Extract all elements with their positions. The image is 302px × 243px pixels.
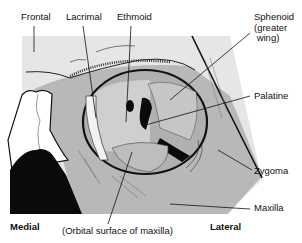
label-palatine: Palatine [254,91,288,102]
label-zygoma: Zygoma [254,166,288,177]
orientation-lateral: Lateral [210,222,241,233]
label-ethmoid: Ethmoid [117,12,152,23]
label-sphenoid: Sphenoid (greater wing) [254,12,294,44]
label-maxilla: Maxilla [254,203,284,214]
label-frontal: Frontal [21,12,51,23]
orientation-medial: Medial [10,222,40,233]
label-lacrimal: Lacrimal [66,12,102,23]
label-orbital-surface: (Orbital surface of maxilla) [62,226,173,237]
